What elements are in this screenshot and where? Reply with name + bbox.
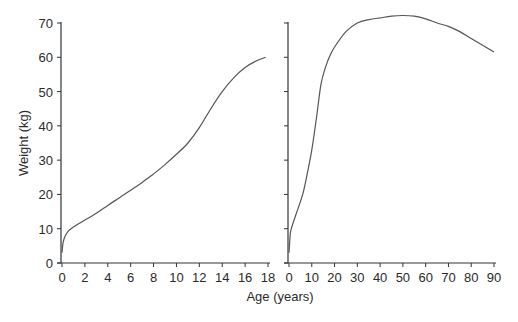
y-tick-label: 30 bbox=[39, 153, 53, 168]
x-tick-label: 12 bbox=[192, 270, 206, 285]
x-tick-label: 14 bbox=[215, 270, 229, 285]
weight-curve-lifespan bbox=[289, 16, 494, 253]
y-tick-label: 0 bbox=[46, 256, 53, 271]
x-tick-label: 6 bbox=[127, 270, 134, 285]
y-tick-label: 70 bbox=[39, 16, 53, 31]
x-tick-label: 90 bbox=[487, 270, 501, 285]
x-tick-label: 60 bbox=[418, 270, 432, 285]
y-tick-label: 40 bbox=[39, 119, 53, 134]
x-tick-label: 70 bbox=[441, 270, 455, 285]
y-tick-label: 50 bbox=[39, 85, 53, 100]
x-tick-label: 30 bbox=[350, 270, 364, 285]
x-tick-label: 16 bbox=[238, 270, 252, 285]
x-tick-label: 2 bbox=[81, 270, 88, 285]
x-tick-label: 18 bbox=[261, 270, 275, 285]
x-tick-label: 4 bbox=[104, 270, 111, 285]
x-tick-label: 10 bbox=[305, 270, 319, 285]
chart-panel-lifespan: 0102030405060708090 bbox=[284, 16, 501, 286]
x-tick-label: 8 bbox=[150, 270, 157, 285]
x-tick-label: 50 bbox=[396, 270, 410, 285]
y-tick-label: 60 bbox=[39, 50, 53, 65]
weight-curve-childhood bbox=[62, 57, 266, 252]
x-tick-label: 0 bbox=[285, 270, 292, 285]
x-tick-label: 80 bbox=[464, 270, 478, 285]
x-tick-label: 20 bbox=[327, 270, 341, 285]
x-axis-label: Age (years) bbox=[246, 289, 313, 304]
x-tick-label: 40 bbox=[373, 270, 387, 285]
x-tick-label: 0 bbox=[58, 270, 65, 285]
chart-panel-childhood: 010203040506070024681012141618 bbox=[39, 16, 276, 285]
y-tick-label: 10 bbox=[39, 222, 53, 237]
growth-charts: Weight (kg) Age (years) 0102030405060700… bbox=[0, 0, 518, 322]
x-tick-label: 10 bbox=[169, 270, 183, 285]
y-axis-label: Weight (kg) bbox=[16, 110, 31, 176]
chart-canvas: Weight (kg) Age (years) 0102030405060700… bbox=[0, 0, 518, 322]
y-tick-label: 20 bbox=[39, 187, 53, 202]
